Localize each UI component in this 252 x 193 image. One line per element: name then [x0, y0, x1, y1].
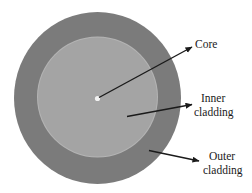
- fiber-diagram: Core Inner cladding Outer cladding: [0, 0, 252, 193]
- outer-cladding-label-line2: cladding: [203, 164, 243, 177]
- inner-cladding-label-line2: cladding: [194, 106, 234, 119]
- outer-cladding-label-line1: Outer: [209, 150, 235, 162]
- core-label: Core: [195, 38, 217, 50]
- inner-cladding-label-line1: Inner: [201, 92, 225, 104]
